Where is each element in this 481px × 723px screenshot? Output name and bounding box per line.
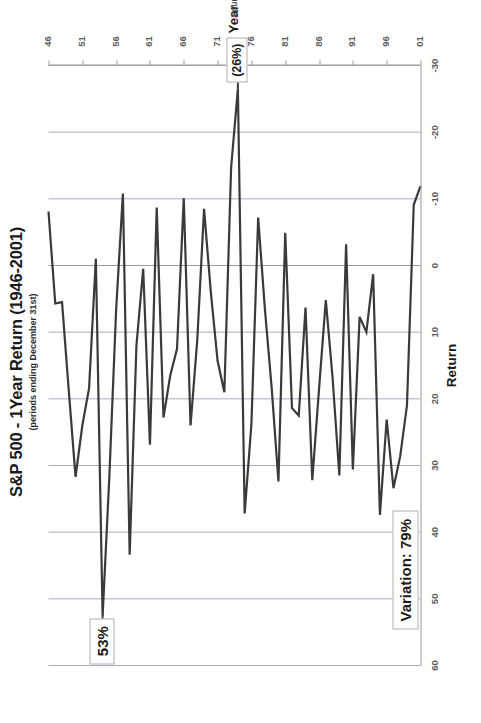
value-axis-label: -10: [428, 183, 439, 213]
value-axis-label: 50: [428, 583, 439, 613]
year-axis-label: 81: [278, 24, 289, 58]
year-axis-label: 71: [210, 24, 221, 58]
year-axis-label: 96: [379, 24, 390, 58]
year-axis-label: 51: [75, 24, 86, 58]
year-axis-label: 46: [41, 24, 52, 58]
value-axis-label: 10: [428, 317, 439, 347]
x-axis-line: [420, 65, 421, 665]
value-axis-label: -30: [428, 50, 439, 80]
year-axis-label: 91: [345, 24, 356, 58]
value-axis-label: 20: [428, 383, 439, 413]
plot-area: [48, 65, 420, 665]
year-axis-label: 61: [142, 24, 153, 58]
annotation-leader-lines: [48, 65, 420, 665]
value-axis-label: 0: [428, 250, 439, 280]
value-axis-label: 40: [428, 517, 439, 547]
chart-figure: S&P 500 - 1Year Return (1946-2001) (peri…: [0, 0, 481, 723]
year-axis-label: 01: [413, 24, 424, 58]
chart-title: S&P 500 - 1Year Return (1946-2001): [6, 0, 25, 723]
value-axis-label: 60: [428, 650, 439, 680]
year-axis-label: 56: [109, 24, 120, 58]
annotation-trough-26: (26%): [226, 37, 246, 82]
value-axis-title: Return: [443, 65, 458, 665]
value-axis-label: -20: [428, 117, 439, 147]
annotation-variation: Variation: 79%: [392, 510, 417, 629]
annotation-peak-53: 53%: [89, 618, 114, 664]
source-note: Source: Ibbotson Associates: [228, 0, 238, 17]
value-axis-label: 30: [428, 450, 439, 480]
year-axis-label: 66: [176, 24, 187, 58]
year-axis-label: 86: [312, 24, 323, 58]
chart-subtitle: (periods ending December 31st): [27, 0, 37, 723]
